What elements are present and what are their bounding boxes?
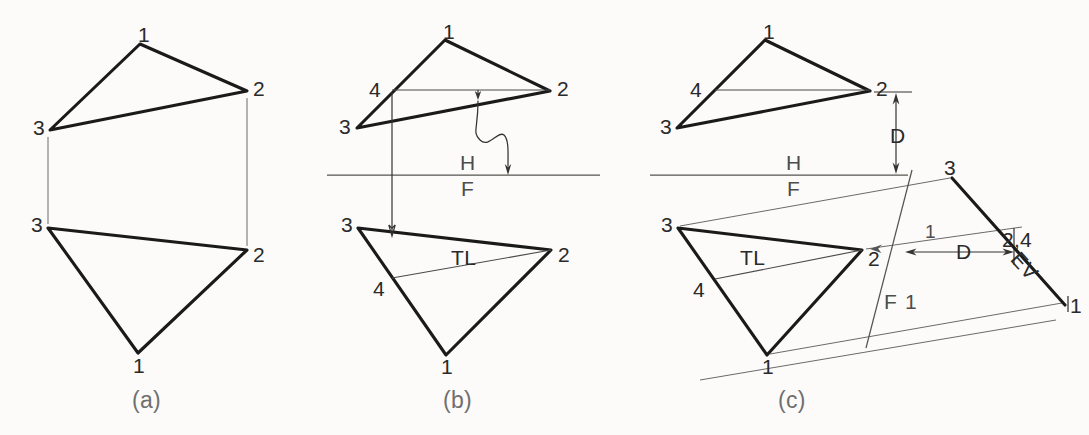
panel-b-label-vertex-2-top: 2 bbox=[557, 78, 569, 99]
panel-a-top-view-triangle bbox=[50, 44, 247, 130]
panel-caption-a: (a) bbox=[132, 389, 161, 412]
panel-b-label-vertex-3-top: 3 bbox=[339, 116, 351, 137]
figure-container: 1 2 3 3 2 1 1 2 4 3 3 2 4 1 TL H F 1 2 4… bbox=[0, 0, 1089, 435]
panel-c-fold-label-h: H bbox=[786, 152, 801, 173]
panel-c-label-vertex-1-front: 1 bbox=[762, 356, 774, 377]
panel-a-label-vertex-2-top: 2 bbox=[253, 78, 265, 99]
panel-b-label-vertex-1-front: 1 bbox=[441, 356, 453, 377]
panel-c-label-true-length: TL bbox=[740, 247, 765, 268]
panel-b-label-vertex-1-top: 1 bbox=[443, 21, 455, 42]
panel-c-label-vertex-3-top: 3 bbox=[660, 116, 672, 137]
technical-drawing-svg bbox=[0, 0, 1089, 435]
panel-c-aux-fold-label-1: 1 bbox=[905, 291, 917, 312]
panel-a-label-vertex-3-top: 3 bbox=[33, 117, 45, 138]
panel-c-aux-projector-3 bbox=[680, 178, 950, 226]
panel-c-label-vertex-2-top: 2 bbox=[876, 78, 888, 99]
panel-c-top-view-triangle bbox=[677, 40, 870, 128]
panel-c-aux-projector-label-1: 1 bbox=[925, 222, 936, 241]
panel-b-label-vertex-2-front: 2 bbox=[558, 244, 570, 265]
panel-c-aux-label-vertex-3: 3 bbox=[944, 157, 956, 178]
panel-c-label-vertex-1-top: 1 bbox=[763, 21, 775, 42]
panel-a-label-vertex-2-front: 2 bbox=[253, 244, 265, 265]
panel-c-front-view-triangle bbox=[678, 228, 862, 355]
panel-c-aux-label-vertex-2-4: 2,4 bbox=[1002, 229, 1032, 250]
panel-c-label-vertex-4-front: 4 bbox=[693, 279, 705, 300]
panel-caption-b: (b) bbox=[443, 389, 472, 412]
panel-c-aux-label-vertex-1: 1 bbox=[1070, 295, 1082, 316]
panel-a-label-vertex-1-top: 1 bbox=[138, 24, 150, 45]
panel-a-label-vertex-1-front: 1 bbox=[133, 355, 145, 376]
panel-b-label-vertex-3-front: 3 bbox=[341, 214, 353, 235]
panel-c-dim-label-d-horizontal: D bbox=[956, 241, 971, 262]
panel-a-geometry bbox=[48, 44, 247, 353]
panel-b-wavy-arrow bbox=[476, 101, 508, 166]
panel-b-label-true-length: TL bbox=[451, 247, 476, 268]
panel-c-label-vertex-2-front: 2 bbox=[868, 248, 880, 269]
panel-c-aux-parallelogram-lower-edge bbox=[700, 320, 1056, 380]
panel-c-fold-label-f: F bbox=[787, 178, 800, 199]
panel-b-label-vertex-4-front: 4 bbox=[373, 278, 385, 299]
panel-caption-c: (c) bbox=[778, 389, 806, 412]
panel-c-label-vertex-4-top: 4 bbox=[690, 79, 702, 100]
panel-a-label-vertex-3-front: 3 bbox=[31, 214, 43, 235]
panel-c-label-vertex-3-front: 3 bbox=[661, 214, 673, 235]
panel-b-label-vertex-4-top: 4 bbox=[369, 79, 381, 100]
panel-b-top-view-triangle bbox=[357, 40, 550, 128]
panel-b-fold-label-f: F bbox=[461, 178, 474, 199]
panel-b-fold-label-h: H bbox=[460, 152, 475, 173]
panel-c-aux-fold-label-f: F bbox=[884, 291, 897, 312]
panel-c-geometry bbox=[650, 40, 1068, 380]
panel-c-dim-label-d-vertical: D bbox=[890, 125, 905, 146]
panel-a-front-view-triangle bbox=[48, 228, 247, 353]
